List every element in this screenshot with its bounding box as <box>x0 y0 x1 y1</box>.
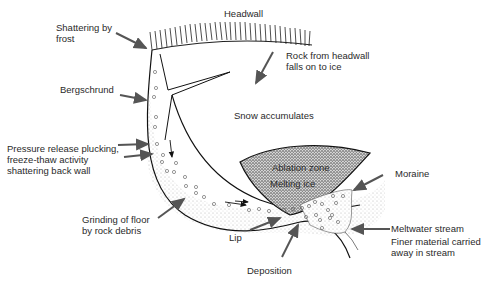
arrow-bergschrund <box>120 95 146 100</box>
label-finer-2: away in stream <box>391 247 455 258</box>
headwall-hatching <box>150 22 312 50</box>
label-deposition: Deposition <box>247 265 292 276</box>
label-shattering-2: frost <box>56 33 74 44</box>
label-plucking-1: Pressure release plucking, <box>7 143 119 154</box>
label-grinding-1: Grinding of floor <box>82 214 150 225</box>
label-ablation: Ablation zone <box>272 162 330 173</box>
label-moraine: Moraine <box>395 168 429 179</box>
arrow-shattering <box>116 33 146 48</box>
label-rockfall-1: Rock from headwall <box>286 50 369 61</box>
label-lip: Lip <box>229 232 242 243</box>
label-plucking-3: shattering back wall <box>7 165 90 176</box>
label-grinding-2: by rock debris <box>82 225 141 236</box>
label-headwall: Headwall <box>224 8 263 19</box>
arrow-plucking-1 <box>118 144 148 145</box>
arrow-rockfall <box>256 52 273 83</box>
label-meltwater: Meltwater stream <box>391 223 464 234</box>
label-melting: Melting ice <box>270 178 315 189</box>
label-plucking-2: freeze-thaw activity <box>7 154 88 165</box>
label-bergschrund: Bergschrund <box>60 84 114 95</box>
label-finer-1: Finer material carried <box>391 236 481 247</box>
label-shattering-1: Shattering by <box>56 22 112 33</box>
label-rockfall-2: falls on to ice <box>286 61 341 72</box>
label-snow: Snow accumulates <box>234 110 314 121</box>
